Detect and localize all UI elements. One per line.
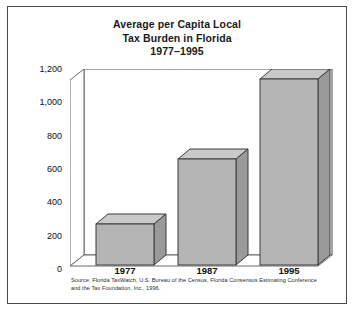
bar-1977[interactable] — [96, 214, 166, 265]
bar-1995[interactable] — [260, 69, 330, 265]
title-line-1: Average per Capita Local — [8, 18, 346, 32]
category-label-1977: 1977 — [95, 265, 155, 276]
category-label-1995: 1995 — [259, 265, 319, 276]
source-note: Source: Florida TaxWatch, U.S. Bureau of… — [71, 277, 321, 292]
y-tick-800: 800 — [47, 131, 62, 141]
title-line-2: Tax Burden in Florida — [8, 32, 346, 46]
plot-area — [70, 69, 342, 269]
figure-frame: Average per Capita Local Tax Burden in F… — [7, 6, 347, 304]
y-tick-400: 400 — [47, 197, 62, 207]
category-label-1987: 1987 — [177, 265, 237, 276]
y-tick-1000: 1,000 — [39, 97, 62, 107]
bar-chart-svg — [70, 69, 342, 269]
title-line-3: 1977–1995 — [8, 45, 346, 59]
y-tick-1200: 1,200 — [39, 64, 62, 74]
y-tick-200: 200 — [47, 231, 62, 241]
page-title: Average per Capita Local Tax Burden in F… — [8, 18, 346, 59]
y-tick-0: 0 — [57, 264, 62, 274]
y-axis-tick-labels: 1,200 1,000 800 600 400 200 0 — [14, 69, 62, 269]
y-tick-600: 600 — [47, 164, 62, 174]
bar-1987[interactable] — [178, 149, 248, 265]
